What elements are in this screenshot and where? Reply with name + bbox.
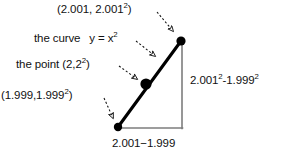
- curve-label-equation: y = x: [89, 32, 113, 44]
- rise-label-second-base: 1.999: [226, 74, 254, 86]
- lower-point-label-prefix: (1.999,1.999: [1, 89, 64, 101]
- point-leader: [119, 66, 137, 79]
- point-label-text: the point: [16, 58, 59, 70]
- point-label-coords-prefix: (2,2: [62, 58, 81, 70]
- run-label: 2.001−1.999: [112, 137, 175, 150]
- upper-point-label-prefix: (2.001, 2.001: [57, 3, 123, 15]
- curve-label: the curve y = x2: [34, 32, 118, 45]
- lower-point-label: (1.999,1.9992): [1, 89, 72, 102]
- upper-point-label: (2.001, 2.0012): [57, 3, 131, 16]
- upper-point-dot: [176, 36, 185, 45]
- point-label: the point (2,22): [16, 58, 90, 71]
- rise-label-first-base: 2.001: [190, 74, 218, 86]
- secant-line-figure: (2.001, 2.0012) the curve y = x2 the poi…: [0, 0, 283, 154]
- curve-leader: [136, 41, 155, 56]
- point-label-coords-suffix: ): [86, 58, 90, 70]
- curve-label-text: the curve: [34, 32, 80, 44]
- upper-point-leader: [157, 12, 173, 31]
- rise-label: 2.0012-1.9992: [190, 74, 259, 87]
- rise-label-second-exponent: 2: [255, 72, 259, 81]
- lower-point-dot: [114, 123, 122, 131]
- upper-point-label-suffix: ): [128, 3, 132, 15]
- lower-point-leader: [104, 98, 113, 118]
- curve-label-exponent: 2: [113, 30, 117, 39]
- lower-point-label-suffix: ): [69, 89, 73, 101]
- curve-label-gap: [80, 32, 89, 44]
- middle-point-dot: [140, 78, 151, 89]
